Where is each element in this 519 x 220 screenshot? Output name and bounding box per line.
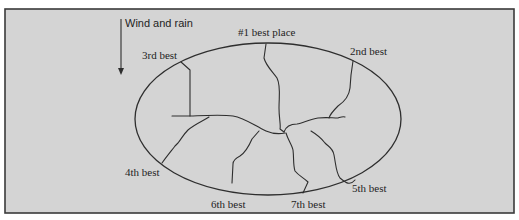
label-2nd-best: 2nd best <box>350 45 387 57</box>
label-4th-best: 4th best <box>125 166 160 178</box>
label-1st-best: #1 best place <box>238 26 296 38</box>
wind-label: Wind and rain <box>125 17 193 29</box>
label-3rd-best: 3rd best <box>142 49 177 61</box>
diagram-frame <box>5 9 514 213</box>
campsite-diagram: Wind and rain #1 best place 2nd best 3rd… <box>0 0 519 220</box>
label-6th-best: 6th best <box>211 198 246 210</box>
label-5th-best: 5th best <box>352 182 387 194</box>
label-7th-best: 7th best <box>291 198 326 210</box>
